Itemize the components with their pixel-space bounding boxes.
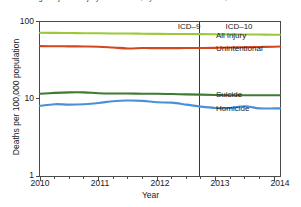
y-axis-title: Deaths per 100,000 population	[11, 27, 21, 167]
x-tick-2013: 2013	[203, 178, 237, 188]
x-tick-2011: 2011	[83, 178, 117, 188]
x-tick-2014: 2014	[263, 178, 297, 188]
x-tick-2010: 2010	[23, 178, 57, 188]
x-axis-title: Year	[0, 190, 301, 200]
icd10-annotation: ICD–10	[216, 22, 262, 31]
plot-area	[0, 0, 301, 207]
injury-death-rate-chart: Age-adjusted injury death rates, by inte…	[0, 0, 301, 207]
series-label-homicide: Homicide	[216, 104, 249, 113]
icd9-annotation: ICD–9	[166, 22, 212, 31]
series-label-unintentional: Unintentional	[216, 44, 263, 53]
x-tick-2012: 2012	[143, 178, 177, 188]
series-line-suicide	[40, 92, 280, 95]
y-tick-100: 100	[12, 16, 34, 26]
series-label-all-injury: All injury	[216, 31, 246, 40]
series-label-suicide: Suicide	[216, 90, 242, 99]
